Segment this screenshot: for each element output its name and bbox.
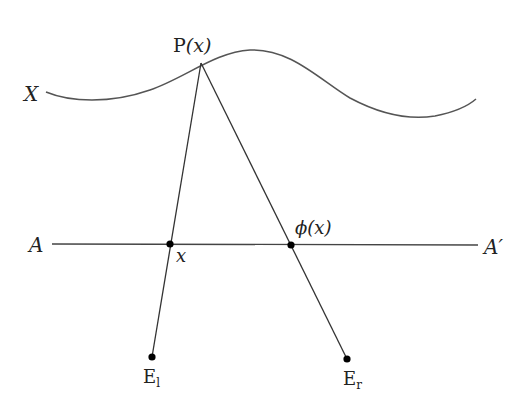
label-surface-x: X [22,82,39,106]
label-p-arg: (x) [186,34,212,56]
label-line-a: A [27,233,43,257]
label-p-prefix: P [173,34,186,56]
line-a-a-prime [52,244,478,245]
surface-curve-x [46,50,476,117]
label-left-eye-sub: l [156,376,160,390]
label-right-eye: Er [343,368,362,392]
label-right-eye-base: E [343,368,356,389]
ray-p-to-left-eye [152,63,201,357]
point-left-eye [148,353,155,360]
label-line-a-prime: A′ [482,235,503,259]
point-x [166,240,173,247]
point-right-eye [343,355,350,362]
label-phi-arg: (x) [307,217,331,238]
point-phi-x [287,241,294,248]
label-right-eye-sub: r [356,378,362,392]
label-intersection-x: x [176,245,186,266]
label-left-eye: El [143,366,160,390]
label-left-eye-base: E [143,366,156,387]
epipolar-diagram: X P(x) A A′ x ϕ(x) El Er [0,0,532,408]
label-intersection-phi-x: ϕ(x) [295,217,331,238]
label-point-p: P(x) [173,34,211,56]
label-phi: ϕ [295,217,307,238]
ray-p-to-right-eye [201,63,347,359]
